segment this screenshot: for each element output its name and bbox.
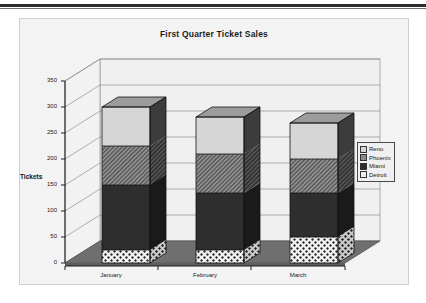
y-tick-label-150: 150 (33, 181, 57, 187)
y-axis-title: Tickets (20, 173, 60, 180)
y-tick-label-200: 200 (33, 155, 57, 161)
bar-january[interactable] (102, 97, 166, 263)
legend-item-phoenix[interactable]: Phoenix (360, 154, 391, 162)
segment-february-reno-front (196, 117, 244, 154)
segment-february-detroit-front (196, 250, 244, 263)
plot-svg (20, 19, 408, 284)
chart-container: First Quarter Ticket Sales (19, 18, 409, 285)
legend-item-detroit[interactable]: Detroit (360, 171, 391, 179)
top-divider-rule-secondary (0, 8, 426, 9)
top-divider-rule (0, 4, 426, 7)
segment-march-detroit-front (290, 237, 338, 263)
y-tick-label-350: 350 (33, 77, 57, 83)
legend-item-reno[interactable]: Reno (360, 145, 391, 153)
legend-label-phoenix: Phoenix (369, 154, 391, 162)
segment-march-miami-front (290, 193, 338, 237)
segment-february-miami-side (244, 183, 260, 250)
y-tick-label-50: 50 (33, 233, 57, 239)
plot-area: 350 300 250 200 150 100 50 0 Tickets Jan… (20, 19, 408, 284)
legend-swatch-phoenix (360, 154, 367, 161)
chart-legend: Reno Phoenix Miami Detroit (357, 142, 395, 182)
y-tick-label-300: 300 (33, 103, 57, 109)
segment-march-reno-front (290, 123, 338, 159)
segment-march-phoenix-front (290, 159, 338, 193)
y-tick-label-100: 100 (33, 207, 57, 213)
x-tick-label-march: March (268, 272, 328, 278)
legend-label-detroit: Detroit (369, 171, 387, 179)
x-tick-label-february: February (175, 272, 235, 278)
y-tick-label-250: 250 (33, 129, 57, 135)
legend-swatch-detroit (360, 171, 367, 178)
segment-january-detroit-front (102, 250, 150, 263)
y-tick-label-0: 0 (33, 259, 57, 265)
segment-january-phoenix-front (102, 146, 150, 185)
left-wall (65, 59, 100, 263)
segment-february-miami-front (196, 193, 244, 250)
legend-item-miami[interactable]: Miami (360, 162, 391, 170)
legend-swatch-miami (360, 163, 367, 170)
bar-february[interactable] (196, 107, 260, 263)
x-axis-ticks (65, 266, 345, 270)
x-tick-label-january: January (81, 272, 141, 278)
bar-march[interactable] (290, 113, 354, 263)
segment-january-miami-front (102, 185, 150, 250)
segment-january-reno-front (102, 107, 150, 146)
legend-label-miami: Miami (369, 162, 385, 170)
y-axis-ticks (61, 81, 65, 263)
segment-february-phoenix-front (196, 154, 244, 193)
legend-label-reno: Reno (369, 145, 383, 153)
legend-swatch-reno (360, 146, 367, 153)
